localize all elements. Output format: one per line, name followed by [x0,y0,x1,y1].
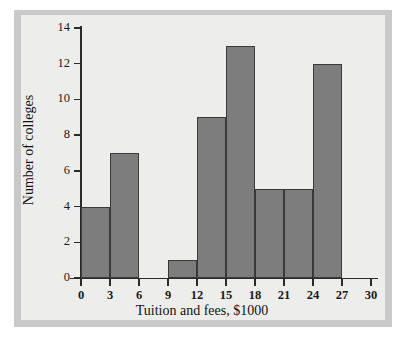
y-axis-tick: 8 [74,134,81,136]
x-axis-title: Tuition and fees, $1000 [0,303,404,319]
histogram-bar [81,207,110,278]
y-axis-tick: 14 [74,27,81,29]
y-axis-tick-label: 0 [64,270,70,285]
x-axis-tick-label: 27 [336,288,349,303]
x-axis-tick [167,279,169,286]
histogram-bar [168,260,197,278]
y-axis-tick: 10 [74,99,81,101]
x-axis-tick [138,279,140,286]
y-axis-title: Number of colleges [21,60,37,240]
x-axis-tick-label: 30 [365,288,378,303]
bars-container [81,28,371,278]
x-axis-tick [109,279,111,286]
histogram-figure: 02468101214 Tuition and fees, $1000 Numb… [0,0,404,340]
y-axis-tick-label: 4 [64,199,70,214]
y-axis-tick-label: 12 [58,56,71,71]
x-axis-tick [370,279,372,286]
x-axis-tick [283,279,285,286]
y-axis-tick: 4 [74,206,81,208]
x-axis-tick-label: 15 [220,288,233,303]
y-axis-tick-label: 6 [64,163,70,178]
x-axis-tick-label: 9 [165,288,171,303]
y-axis-tick-label: 14 [58,20,71,35]
y-axis-tick-label: 8 [64,127,70,142]
x-axis-tick [196,279,198,286]
y-axis-tick-label: 2 [64,234,70,249]
x-axis-tick [341,279,343,286]
x-axis-tick-label: 3 [107,288,113,303]
histogram-bar [110,153,139,278]
x-axis-tick-label: 6 [136,288,142,303]
histogram-bar [226,46,255,278]
y-axis-tick: 6 [74,170,81,172]
x-axis-tick [225,279,227,286]
y-axis-tick-label: 10 [58,92,71,107]
x-axis-tick [254,279,256,286]
y-axis-tick: 2 [74,242,81,244]
x-axis-tick [312,279,314,286]
histogram-bar [255,189,284,278]
y-axis-tick: 12 [74,63,81,65]
x-axis-tick-label: 0 [78,288,84,303]
x-axis-tick-label: 21 [278,288,291,303]
x-axis-tick-label: 12 [191,288,204,303]
x-axis-tick [80,279,82,286]
histogram-bar [313,64,342,278]
x-axis-tick-label: 18 [249,288,262,303]
histogram-bar [197,117,226,278]
histogram-bar [284,189,313,278]
x-axis-tick-label: 24 [307,288,320,303]
